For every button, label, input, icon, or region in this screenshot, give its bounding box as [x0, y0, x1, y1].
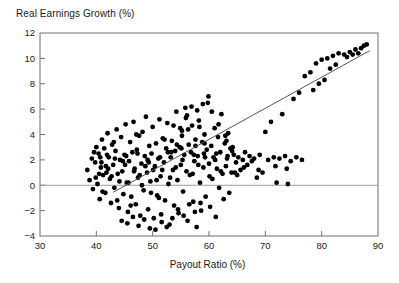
svg-text:10: 10 — [24, 53, 35, 64]
svg-text:−2: −2 — [24, 205, 35, 216]
svg-text:0: 0 — [30, 180, 35, 191]
svg-text:8: 8 — [30, 78, 35, 89]
svg-text:−4: −4 — [24, 230, 35, 241]
x-axis-label: Payout Ratio (%) — [0, 259, 399, 270]
svg-text:80: 80 — [316, 240, 327, 251]
svg-text:70: 70 — [260, 240, 271, 251]
page-title: Real Earnings Growth (%) — [16, 8, 135, 20]
plot-canvas: −4−202468101230405060708090 — [0, 0, 399, 283]
svg-text:4: 4 — [30, 129, 35, 140]
scatter-plot-figure: Real Earnings Growth (%) −4−202468101230… — [0, 0, 399, 283]
svg-text:2: 2 — [30, 154, 35, 165]
svg-text:40: 40 — [91, 240, 102, 251]
axis-tick-labels: −4−202468101230405060708090 — [24, 27, 383, 251]
svg-text:90: 90 — [373, 240, 384, 251]
svg-text:60: 60 — [204, 240, 215, 251]
svg-text:50: 50 — [147, 240, 158, 251]
svg-text:12: 12 — [24, 27, 35, 38]
svg-text:30: 30 — [35, 240, 46, 251]
scatter-points — [85, 42, 369, 232]
svg-text:6: 6 — [30, 104, 35, 115]
x-axis-label-text: Payout Ratio (%) — [170, 259, 246, 270]
